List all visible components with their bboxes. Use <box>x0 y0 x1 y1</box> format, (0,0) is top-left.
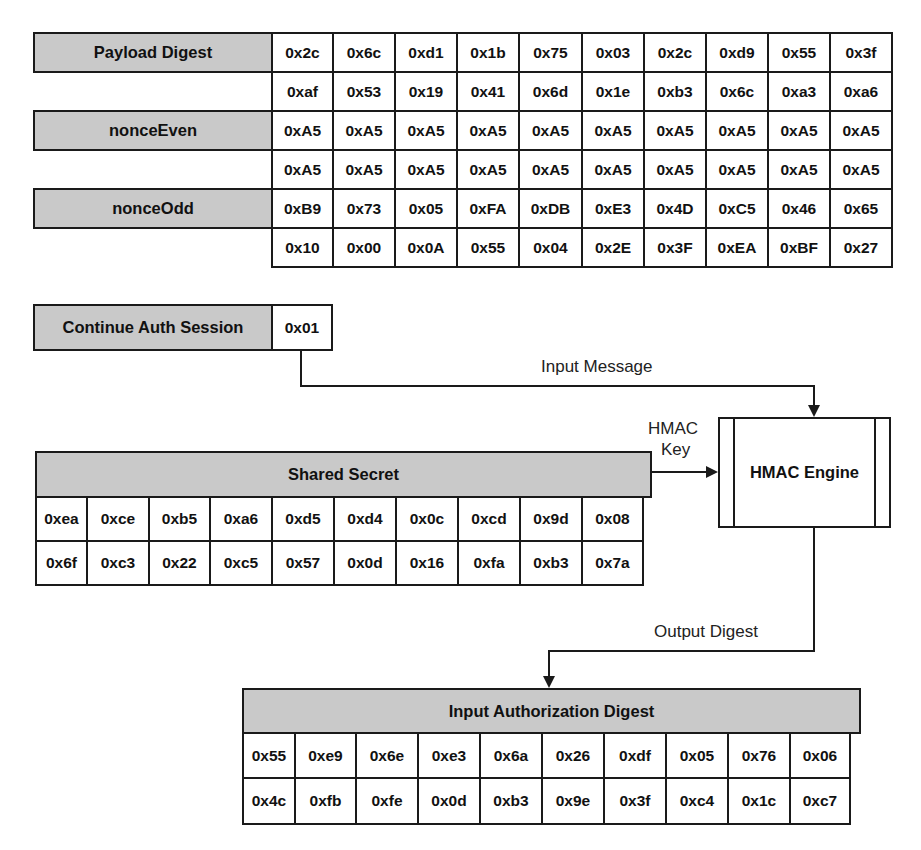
hex-byte-cell: 0x0A <box>394 227 458 268</box>
hex-byte-cell: 0xA5 <box>829 149 893 190</box>
hex-byte-cell: 0x16 <box>395 540 459 586</box>
hex-byte-cell: 0x57 <box>271 540 335 586</box>
hex-byte-cell: 0xcd <box>457 496 521 542</box>
hmac-key-label-line1: HMAC <box>648 419 698 439</box>
hex-byte-cell: 0xA5 <box>456 110 520 151</box>
hex-byte-cell: 0xA5 <box>829 110 893 151</box>
hex-byte-cell: 0x2c <box>271 32 334 73</box>
hex-byte-cell: 0xA5 <box>332 149 396 190</box>
hex-byte-cell: 0x3f <box>829 32 893 73</box>
hex-byte-cell: 0xa6 <box>829 71 893 112</box>
hex-byte-cell: 0x6f <box>35 540 88 586</box>
hex-byte-cell: 0xA5 <box>456 149 520 190</box>
hex-byte-cell: 0xc3 <box>86 540 150 586</box>
hex-byte-cell: 0xA5 <box>767 110 831 151</box>
hex-byte-cell: 0xe9 <box>294 732 357 779</box>
hex-byte-cell: 0x1b <box>456 32 520 73</box>
input-message-label: Input Message <box>541 357 653 377</box>
hex-byte-cell: 0x19 <box>394 71 458 112</box>
hex-byte-cell: 0x4D <box>643 188 707 229</box>
arrow-down-icon <box>543 676 555 688</box>
output-digest-connector-horizontal <box>548 650 815 652</box>
output-digest-connector-drop <box>548 650 550 678</box>
hex-byte-cell: 0x3f <box>603 777 667 825</box>
hex-byte-cell: 0xA5 <box>518 149 583 190</box>
hex-byte-cell: 0xb3 <box>643 71 707 112</box>
hex-byte-cell: 0xe3 <box>417 732 481 779</box>
continue-auth-session-label: Continue Auth Session <box>33 304 273 351</box>
hex-byte-cell: 0x27 <box>829 227 893 268</box>
hex-byte-cell: 0xd5 <box>271 496 335 542</box>
hex-byte-cell: 0x55 <box>767 32 831 73</box>
nonce-odd-label: nonceOdd <box>33 188 273 229</box>
hex-byte-cell: 0xdf <box>603 732 667 779</box>
hex-byte-cell: 0x1c <box>727 777 791 825</box>
hmac-engine-box: HMAC Engine <box>718 417 891 528</box>
hex-byte-cell: 0x03 <box>581 32 645 73</box>
hex-byte-cell: 0xb3 <box>519 540 583 586</box>
hex-byte-cell: 0x6c <box>705 71 769 112</box>
hmac-key-label-line2: Key <box>661 440 690 460</box>
hex-byte-cell: 0x55 <box>242 732 296 779</box>
input-message-connector-vertical <box>300 350 302 387</box>
hex-byte-cell: 0x05 <box>394 188 458 229</box>
hmac-key-connector <box>651 471 707 473</box>
hex-byte-cell: 0xa6 <box>209 496 273 542</box>
hex-byte-cell: 0x76 <box>727 732 791 779</box>
hex-byte-cell: 0x3F <box>643 227 707 268</box>
hex-byte-cell: 0x2E <box>581 227 645 268</box>
output-digest-label: Output Digest <box>654 622 758 642</box>
hex-byte-cell: 0xA5 <box>518 110 583 151</box>
hex-byte-cell: 0x4c <box>242 777 296 825</box>
hex-byte-cell: 0x00 <box>332 227 396 268</box>
hex-byte-cell: 0xC5 <box>705 188 769 229</box>
hex-byte-cell: 0x9d <box>519 496 583 542</box>
hex-byte-cell: 0x46 <box>767 188 831 229</box>
hex-byte-cell: 0x53 <box>332 71 396 112</box>
hex-byte-cell: 0xd1 <box>394 32 458 73</box>
input-message-connector-drop <box>813 385 815 407</box>
hex-byte-cell: 0xFA <box>456 188 520 229</box>
input-authorization-digest-title: Input Authorization Digest <box>242 688 861 734</box>
hex-byte-cell: 0x1e <box>581 71 645 112</box>
hex-byte-cell: 0xA5 <box>643 149 707 190</box>
hex-byte-cell: 0x7a <box>581 540 644 586</box>
hex-byte-cell: 0x75 <box>518 32 583 73</box>
hex-byte-cell: 0xA5 <box>581 110 645 151</box>
hex-byte-cell: 0xA5 <box>705 149 769 190</box>
hex-byte-cell: 0xA5 <box>394 110 458 151</box>
hex-byte-cell: 0xd4 <box>333 496 397 542</box>
output-digest-connector-vertical <box>813 527 815 652</box>
nonce-even-label: nonceEven <box>33 110 273 151</box>
hex-byte-cell: 0x6d <box>518 71 583 112</box>
hex-byte-cell: 0x6a <box>479 732 543 779</box>
hex-byte-cell: 0xc5 <box>209 540 273 586</box>
hex-byte-cell: 0x41 <box>456 71 520 112</box>
hex-byte-cell: 0xEA <box>705 227 769 268</box>
hex-byte-cell: 0x65 <box>829 188 893 229</box>
shared-secret-title: Shared Secret <box>35 451 652 498</box>
payload-digest-label: Payload Digest <box>33 32 273 73</box>
hex-byte-cell: 0xA5 <box>271 110 334 151</box>
hex-byte-cell: 0xA5 <box>271 149 334 190</box>
hex-byte-cell: 0x06 <box>789 732 851 779</box>
hex-byte-cell: 0xaf <box>271 71 334 112</box>
hex-byte-cell: 0x73 <box>332 188 396 229</box>
hex-byte-cell: 0xBF <box>767 227 831 268</box>
hex-byte-cell: 0xA5 <box>767 149 831 190</box>
hex-byte-cell: 0x04 <box>518 227 583 268</box>
hex-byte-cell: 0xA5 <box>705 110 769 151</box>
hex-byte-cell: 0x0c <box>395 496 459 542</box>
hex-byte-cell: 0xDB <box>518 188 583 229</box>
hex-byte-cell: 0xfb <box>294 777 357 825</box>
hex-byte-cell: 0xea <box>35 496 88 542</box>
hex-byte-cell: 0xfe <box>355 777 419 825</box>
hex-byte-cell: 0x08 <box>581 496 644 542</box>
hex-byte-cell: 0xb5 <box>148 496 211 542</box>
hex-byte-cell: 0xd9 <box>705 32 769 73</box>
hex-byte-cell: 0xE3 <box>581 188 645 229</box>
hex-byte-cell: 0xc4 <box>665 777 729 825</box>
hmac-engine-title: HMAC Engine <box>720 419 889 526</box>
hex-byte-cell: 0xfa <box>457 540 521 586</box>
hex-byte-cell: 0x0d <box>417 777 481 825</box>
